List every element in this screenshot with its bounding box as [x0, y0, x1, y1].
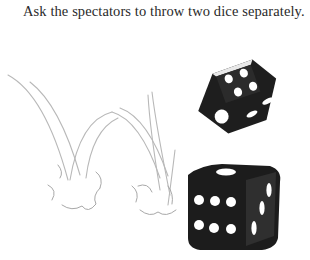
dice-illustration — [0, 0, 310, 260]
page: Ask the spectators to throw two dice sep… — [0, 0, 310, 260]
motion-trails — [8, 75, 175, 205]
die-bottom — [188, 164, 280, 250]
die-top — [186, 48, 291, 146]
